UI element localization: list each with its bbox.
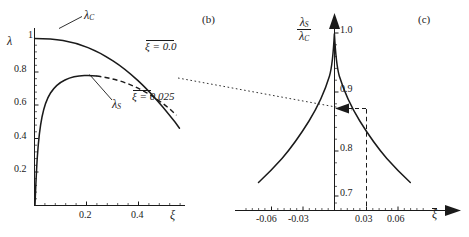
panel-b-x-major-ticks	[87, 202, 139, 206]
panel-b-y-axis-label: λ	[7, 35, 12, 47]
panel-c-tag: (c)	[418, 14, 430, 25]
leader-line-lambda-c	[59, 17, 82, 29]
panel-b-x-axis-label: ξ	[170, 209, 175, 221]
xi-overbar-0025	[133, 90, 150, 91]
panel-c-ytick-10: 1.0	[340, 25, 353, 35]
lambda-c-label: λC	[84, 9, 94, 22]
lambda-s-subscript: S	[117, 102, 121, 111]
panel-b-ytick-06: 0.6	[14, 97, 27, 107]
panel-c-x-axis-label: ξ	[432, 208, 437, 220]
panel-b-ytick-08: 0.8	[14, 64, 27, 74]
panel-c-xtick-006: 0.06	[387, 214, 405, 224]
panel-c-ytick-07: 0.7	[340, 188, 353, 198]
panel-b-xtick-04: 0.4	[131, 210, 144, 220]
panel-c-ylabel-denominator: λC	[297, 30, 311, 43]
xi-marker-arrowhead	[335, 104, 349, 114]
panel-b-xtick-02: 0.2	[79, 210, 92, 220]
xi-bar-0-label: ξ = 0.0	[145, 41, 176, 52]
panel-b-ytick-02: 0.2	[14, 164, 27, 174]
lambda-s-label: λS	[112, 98, 121, 111]
panel-c-ytick-08: 0.8	[340, 143, 353, 153]
figure-canvas	[0, 0, 469, 237]
xi-bar-0-text: ξ = 0.0	[145, 41, 176, 52]
inter-panel-dotted-line	[178, 78, 352, 110]
panel-c-group	[235, 13, 461, 216]
panel-c-ytick-09: 0.9	[340, 84, 353, 94]
panel-c-xtick-003: 0.03	[355, 214, 373, 224]
panel-c-y-axis-arrowhead	[329, 13, 340, 29]
panel-c-x-axis-arrowhead	[445, 205, 461, 216]
panel-c-y-axis-label: λS λC	[297, 16, 311, 43]
xi-overbar-0	[146, 40, 174, 41]
figure-root: λ 1 0.8 0.6 0.4 0.2 0.2 0.4 ξ λC λS ξ = …	[0, 0, 469, 237]
curve-lambda-s	[35, 76, 97, 205]
xi-bar-0025-label: ξ = 0.025	[132, 91, 174, 102]
panel-b-tag: (b)	[202, 14, 215, 25]
panel-c-xtick-neg003: -0.03	[288, 214, 309, 224]
panel-b-ytick-1: 1	[28, 30, 33, 40]
panel-c-xi-bar: ξ	[432, 208, 437, 220]
panel-c-ylabel-numerator: λS	[297, 16, 311, 30]
xi-bar-0025-text: ξ = 0.025	[132, 91, 174, 102]
panel-b-ytick-04: 0.4	[14, 131, 27, 141]
panel-c-xi-overbar	[432, 208, 437, 209]
lambda-c-subscript: C	[89, 13, 94, 22]
panel-c-xtick-neg006: -0.06	[256, 214, 277, 224]
